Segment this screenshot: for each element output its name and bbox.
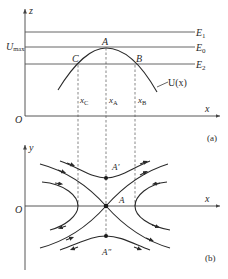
y-axis-label: y xyxy=(28,142,34,153)
origin-label-b: O xyxy=(15,204,22,215)
curve-label-leader xyxy=(157,82,168,87)
x-axis-label-a: x xyxy=(204,103,210,114)
point-a-double-prime-label: A″ xyxy=(101,247,111,257)
flow-arrow xyxy=(55,183,61,184)
xc-label: xC xyxy=(79,95,88,106)
panel-a-label: (a) xyxy=(207,133,217,143)
point-a-label: A xyxy=(101,36,109,47)
point-a-label-b: A xyxy=(118,195,125,205)
flow-arrow xyxy=(66,238,72,240)
potential-and-phase-diagram: z x O E1 E0 E2 Umax U(x) A C B xC xA xB … xyxy=(0,0,228,279)
point-a-prime xyxy=(104,176,108,180)
flow-arrow xyxy=(134,247,140,249)
point-a-prime-label: A′ xyxy=(111,162,120,172)
flow-arrow xyxy=(72,247,78,249)
z-axis-label: z xyxy=(28,5,33,16)
trajectory-upper xyxy=(60,161,150,178)
flow-arrow xyxy=(152,225,158,227)
saddle-point-a xyxy=(104,204,109,209)
point-c-label: C xyxy=(72,53,79,64)
umax-label: Umax xyxy=(6,41,25,52)
xb-label: xB xyxy=(137,95,147,106)
origin-label-a: O xyxy=(15,114,22,125)
e2-label: E2 xyxy=(195,59,206,72)
panel-b: y x O A′ A A″ (b) xyxy=(15,142,220,270)
e0-label: E0 xyxy=(195,42,206,55)
point-a-double-prime xyxy=(104,234,108,238)
panel-b-label: (b) xyxy=(205,253,216,263)
x-axis-label-b: x xyxy=(204,193,210,204)
panel-a: z x O E1 E0 E2 Umax U(x) A C B xC xA xB … xyxy=(6,5,220,143)
potential-curve-label: U(x) xyxy=(168,77,187,89)
e1-label: E1 xyxy=(195,27,206,40)
point-b-label: B xyxy=(136,53,142,64)
xa-label: xA xyxy=(108,95,118,106)
